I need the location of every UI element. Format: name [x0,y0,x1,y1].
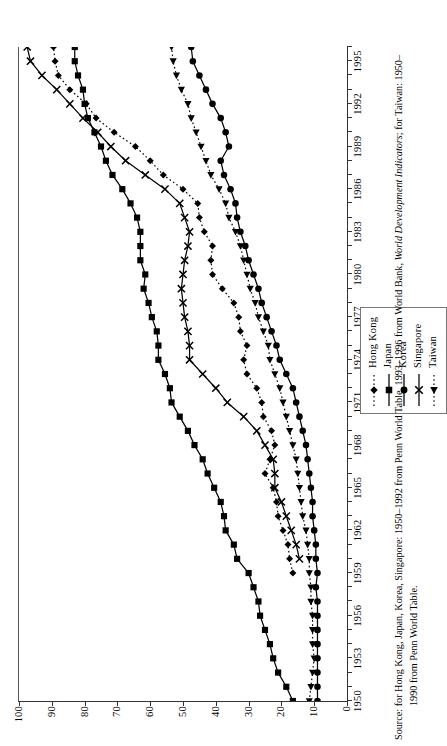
data-point-circle [268,328,275,335]
data-point-square [98,143,104,149]
data-point-square [262,627,268,633]
x-axis-tick-mark [347,302,352,303]
x-axis-tick-mark [347,572,352,573]
data-point-cross [66,100,73,107]
data-point-square [185,428,191,434]
data-point-square [218,499,224,505]
data-point-circle [227,186,234,193]
x-axis-tick-mark [347,401,352,402]
data-point-triangle [197,144,204,151]
data-point-circle [299,428,306,435]
data-point-diamond [132,143,139,150]
data-point-diamond [240,356,247,363]
legend-item-taiwan: Taiwan [426,317,441,407]
y-axis-tick-label: 100 [14,706,25,722]
y-axis-tick-label: 70 [112,706,123,717]
x-axis-tick-mark [347,373,352,374]
x-axis-tick-mark [347,416,352,417]
data-point-circle [311,527,318,534]
x-axis-tick-mark [347,46,352,47]
x-axis-tick-label: 1983 [353,221,364,243]
x-axis-tick-mark [347,458,352,459]
data-point-cross [261,441,268,448]
y-axis-tick-mark [19,701,20,706]
data-point-circle [258,300,265,307]
data-point-diamond [201,228,208,235]
data-point-cross [107,143,114,150]
data-point-triangle [296,485,303,492]
data-point-triangle [306,698,313,701]
data-point-triangle [283,414,290,421]
data-point-square [119,186,125,192]
data-point-cross [240,413,247,420]
data-point-diamond [370,386,377,393]
data-point-triangle [252,300,259,307]
data-point-diamond [52,58,59,65]
series-taiwan [168,47,318,701]
data-point-square [211,485,217,491]
x-axis-tick-label: 1965 [353,477,364,499]
data-point-circle [263,314,270,321]
data-point-triangle [304,542,311,549]
data-point-triangle [222,201,229,208]
data-point-diamond [207,257,214,264]
data-point-circle [309,513,316,520]
x-axis-tick-mark [347,273,352,274]
data-point-circle [221,172,228,179]
data-point-diamond [66,86,73,93]
data-point-square [167,385,173,391]
data-point-triangle [306,556,313,563]
data-point-square [267,641,273,647]
data-point-triangle [297,499,304,506]
data-point-diamond [280,527,287,534]
data-point-square [255,598,261,604]
data-point-circle [217,115,224,122]
data-point-circle [314,598,321,605]
data-point-diamond [262,470,269,477]
data-point-diamond [50,47,57,50]
source-second-line: 1990 from Penn World Table. [407,5,422,740]
data-point-triangle [243,272,250,279]
x-axis-tick-mark [347,316,352,317]
data-point-square [75,72,81,78]
x-axis-tick-mark [347,430,352,431]
y-axis-tick-label: 30 [243,706,254,717]
data-point-square [142,271,148,277]
data-point-square [155,357,161,363]
data-point-triangle [289,442,296,449]
data-point-cross [176,200,183,207]
x-axis-tick-mark [347,444,352,445]
data-point-circle [273,342,280,349]
data-point-square [385,387,392,394]
data-point-diamond [93,115,100,122]
data-point-circle [276,356,283,363]
x-axis-tick-label: 1959 [353,562,364,584]
y-axis-tick-mark [216,701,217,706]
data-point-diamond [258,399,265,406]
data-point-triangle [193,129,200,136]
data-point-diamond [209,271,216,278]
data-point-circle [188,47,195,50]
x-axis-tick-label: 1986 [353,178,364,200]
series-korea [188,47,321,701]
data-point-circle [296,413,303,420]
x-axis-tick-mark [347,103,352,104]
data-point-circle [203,86,210,93]
data-point-triangle [294,471,301,478]
data-point-triangle [247,286,254,293]
data-point-square [250,584,256,590]
data-point-triangle [286,428,293,435]
data-point-diamond [260,413,267,420]
data-point-square [134,215,140,221]
data-point-square [270,655,276,661]
data-point-diamond [271,442,278,449]
data-point-square [72,47,78,50]
series-line [53,47,292,573]
data-point-square [191,442,197,448]
data-point-triangle [265,343,272,350]
data-point-circle [250,271,257,278]
data-point-triangle [173,73,180,80]
legend-marker-taiwan [427,373,441,407]
data-point-triangle [279,400,286,407]
